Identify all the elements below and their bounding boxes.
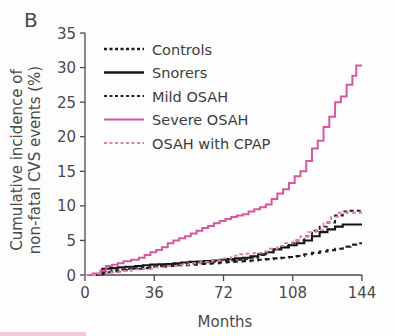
x-tick-label: 0 (80, 284, 90, 302)
x-axis-ticks: 03672108144 (80, 275, 376, 302)
legend-label-severe-osah: Severe OSAH (152, 112, 249, 128)
legend-label-snorers: Snorers (152, 65, 207, 81)
x-tick-label: 36 (145, 284, 164, 302)
y-tick-label: 10 (57, 197, 76, 215)
y-axis-title: Cumulative incidence of non-fatal CVS ev… (8, 66, 44, 254)
y-tick-label: 15 (57, 163, 76, 181)
chart-axes (85, 33, 362, 275)
y-tick-label: 25 (57, 94, 76, 112)
series-line-snorers (85, 225, 362, 275)
legend-label-controls: Controls (152, 42, 212, 58)
y-axis-ticks: 05101520253035 (57, 25, 85, 285)
y-tick-label: 0 (66, 267, 76, 285)
x-tick-label: 108 (278, 284, 307, 302)
x-tick-label: 72 (214, 284, 233, 302)
legend-label-mild-osah: Mild OSAH (152, 89, 228, 105)
y-tick-label: 5 (66, 232, 76, 250)
cumulative-incidence-line-chart: Cumulative incidence of non-fatal CVS ev… (0, 0, 395, 336)
decorative-bottom-strip (0, 332, 86, 336)
x-tick-label: 144 (348, 284, 377, 302)
figure-panel-b: B Cumulative incidence of non-fatal CVS … (0, 0, 395, 336)
y-axis-title-line1: Cumulative incidence of (8, 69, 26, 251)
y-axis-title-line2: non-fatal CVS events (%) (26, 66, 44, 254)
x-axis-title: Months (198, 313, 253, 331)
chart-legend: ControlsSnorersMild OSAHSevere OSAHOSAH … (104, 42, 271, 152)
y-tick-label: 30 (57, 59, 76, 77)
y-tick-label: 35 (57, 25, 76, 43)
y-tick-label: 20 (57, 128, 76, 146)
legend-label-osah-with-cpap: OSAH with CPAP (152, 136, 271, 152)
